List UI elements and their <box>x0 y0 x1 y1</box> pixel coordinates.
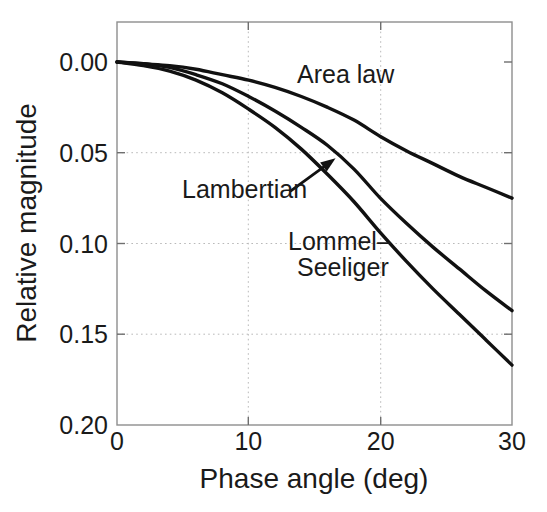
line-chart: 0 10 20 30 0.00 0.05 0.10 0.15 0.20 Phas… <box>0 0 547 512</box>
y-tick-label-010: 0.10 <box>59 230 108 258</box>
y-axis-title: Relative magnitude <box>11 103 42 343</box>
y-tick-labels: 0.00 0.05 0.10 0.15 0.20 <box>59 48 108 439</box>
figure-container: 0 10 20 30 0.00 0.05 0.10 0.15 0.20 Phas… <box>0 0 547 512</box>
y-tick-label-020: 0.20 <box>59 411 108 439</box>
y-tick-label-005: 0.05 <box>59 139 108 167</box>
x-tick-labels: 0 10 20 30 <box>110 427 526 455</box>
annotation-seeliger: Seeliger <box>297 253 389 281</box>
x-tick-label-20: 20 <box>367 427 395 455</box>
x-axis-title: Phase angle (deg) <box>200 463 429 494</box>
x-tick-label-10: 10 <box>234 427 262 455</box>
x-tick-label-0: 0 <box>110 427 124 455</box>
annotation-lambertian: Lambertian <box>182 175 307 203</box>
annotation-area-law: Area law <box>297 60 395 88</box>
annotation-lommel: Lommel– <box>288 227 391 255</box>
x-tick-label-30: 30 <box>498 427 526 455</box>
y-tick-label-015: 0.15 <box>59 320 108 348</box>
y-tick-label-000: 0.00 <box>59 48 108 76</box>
